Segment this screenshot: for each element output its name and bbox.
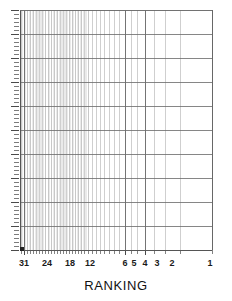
ranking-chart: 31241812654321 RANKING [0, 0, 232, 301]
x-axis-tick-label: 6 [122, 258, 127, 268]
x-axis-tick-label: 24 [42, 258, 52, 268]
x-axis-tick-label: 5 [131, 258, 136, 268]
x-axis-tick-label: 12 [85, 258, 95, 268]
x-axis-title: RANKING [0, 279, 232, 293]
x-axis-tick-label: 4 [142, 258, 147, 268]
data-point-marker [20, 247, 23, 250]
data-point-markers [20, 247, 23, 250]
x-axis-tick-label: 3 [154, 258, 159, 268]
x-axis-tick-label: 2 [169, 258, 174, 268]
x-axis-tick-label: 31 [19, 258, 29, 268]
x-axis-tick-label: 18 [65, 258, 75, 268]
chart-background [0, 0, 232, 301]
plot-grid-svg [0, 0, 232, 301]
x-axis-tick-label: 1 [207, 258, 212, 268]
